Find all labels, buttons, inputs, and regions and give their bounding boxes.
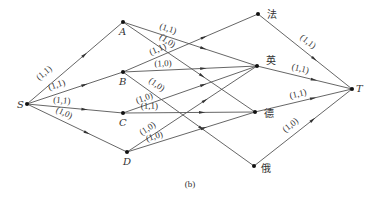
node-T: T [350, 83, 364, 94]
node-label: S [17, 99, 24, 110]
arrow-icon [311, 78, 318, 81]
edge-B-fa: (1,1) [123, 14, 258, 72]
node-label: T [356, 83, 364, 94]
edges-layer: (1,1)(1,1)(1,1)(1,0)(1,1)(1,0)(1,1)(1,0)… [27, 14, 352, 166]
arrow-icon [200, 46, 207, 49]
edge-label: (1,1) [34, 63, 54, 82]
edge-line [123, 112, 255, 113]
node-label: 德 [264, 107, 274, 119]
node-label: 俄 [261, 163, 271, 174]
arrow-icon [310, 97, 317, 100]
node-dot [350, 87, 354, 91]
node-e: 俄 [252, 163, 271, 174]
edge-label: (1,0) [280, 116, 300, 135]
node-D: D [122, 150, 131, 167]
node-label: B [118, 76, 126, 87]
arrow-icon [81, 84, 88, 87]
node-label: A [118, 26, 126, 37]
node-dot [121, 70, 125, 74]
edge-C-de: (1,1) [123, 101, 255, 114]
node-label: D [122, 156, 131, 167]
arrow-icon [199, 111, 205, 114]
edge-line [123, 66, 257, 72]
node-dot [25, 102, 29, 106]
edge-line [27, 22, 123, 104]
node-dot [255, 64, 259, 68]
edge-line [27, 104, 123, 113]
edge-label: (1,1) [141, 101, 158, 111]
node-de: 德 [253, 107, 274, 119]
edge-B-ying: (1,0) [123, 58, 257, 72]
edge-label: (1,0) [154, 58, 172, 69]
arrow-icon [84, 130, 90, 134]
node-dot [121, 20, 125, 24]
edge-line [123, 14, 258, 72]
edge-S-D: (1,0) [27, 104, 127, 152]
figure-caption: (b) [185, 179, 196, 189]
node-dot [253, 110, 257, 114]
node-fa: 法 [256, 8, 277, 20]
edge-B-e: (1,0) [123, 72, 254, 166]
node-dot [256, 12, 260, 16]
edge-line [123, 22, 257, 66]
node-C: C [119, 111, 127, 128]
edge-line [123, 72, 254, 166]
node-dot [252, 164, 256, 168]
edge-label: (1,1) [298, 32, 318, 51]
node-dot [125, 150, 129, 154]
arrow-icon [81, 108, 88, 111]
edge-S-C: (1,1) [27, 94, 123, 113]
edge-label: (1,1) [47, 77, 67, 92]
arrow-icon [202, 99, 208, 104]
edge-S-A: (1,1) [27, 22, 123, 104]
flow-network-diagram: (1,1)(1,1)(1,1)(1,0)(1,1)(1,0)(1,1)(1,0)… [0, 0, 372, 205]
node-ying: 英 [255, 54, 276, 68]
edge-label: (1,1) [53, 94, 71, 106]
edge-line [27, 104, 127, 152]
node-B: B [118, 70, 126, 87]
node-dot [121, 111, 125, 115]
edge-label: (1,1) [291, 62, 310, 76]
node-S: S [17, 99, 29, 110]
edge-label: (1,1) [288, 87, 307, 101]
arrow-icon [201, 36, 207, 40]
node-label: C [119, 117, 127, 128]
arrow-icon [200, 84, 207, 87]
nodes-layer: SABCD法英德俄T [17, 8, 364, 174]
node-label: 法 [267, 8, 277, 20]
node-label: 英 [266, 54, 276, 66]
